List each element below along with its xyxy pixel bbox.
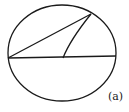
chord-line [8,14,91,58]
circle [8,5,116,101]
figure-label: (a) [108,90,123,103]
diameter-line [8,56,116,58]
radius-line [63,14,91,58]
